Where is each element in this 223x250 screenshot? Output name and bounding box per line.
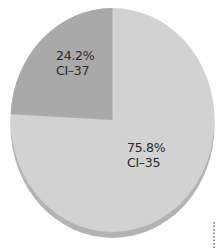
slice-percent: 75.8% — [127, 140, 165, 155]
dotted-edge-marker — [213, 222, 215, 248]
slice-category: CI–37 — [56, 63, 94, 78]
slice-category: CI–35 — [127, 155, 165, 170]
pie-chart — [0, 0, 223, 250]
slice-label-ci-37: 24.2% CI–37 — [56, 48, 94, 78]
slice-label-ci-35: 75.8% CI–35 — [127, 140, 165, 170]
slice-percent: 24.2% — [56, 48, 94, 63]
